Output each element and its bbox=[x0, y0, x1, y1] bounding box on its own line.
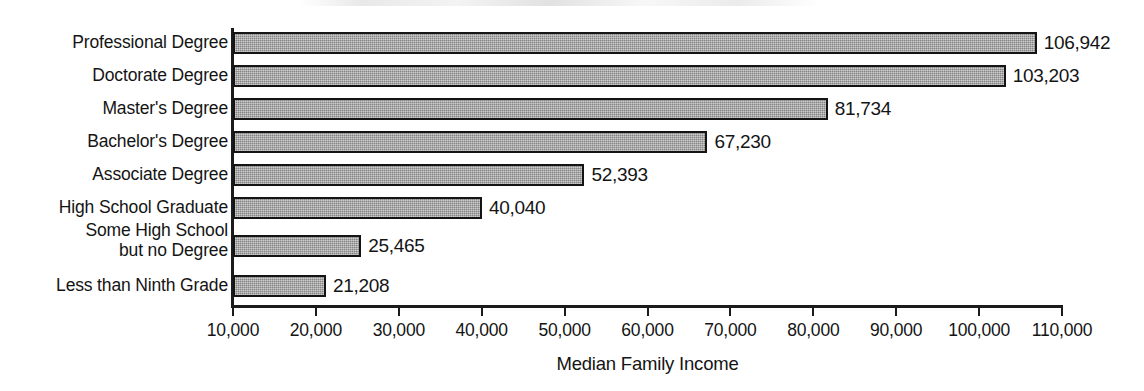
bar-value-label: 81,734 bbox=[835, 98, 891, 120]
x-tick-label: 70,000 bbox=[704, 320, 756, 340]
x-axis-title: Median Family Income bbox=[233, 353, 1062, 375]
x-tick bbox=[1061, 305, 1063, 316]
bar-value-label: 67,230 bbox=[714, 131, 770, 153]
x-tick-label: 20,000 bbox=[290, 320, 342, 340]
bar bbox=[233, 131, 707, 153]
category-label: High School Graduate bbox=[0, 197, 228, 217]
category-label: Master's Degree bbox=[0, 98, 228, 118]
x-tick-label: 110,000 bbox=[1032, 320, 1093, 340]
category-label: Bachelor's Degree bbox=[0, 131, 228, 151]
bar bbox=[233, 197, 482, 219]
x-tick bbox=[895, 305, 897, 316]
x-tick bbox=[564, 305, 566, 316]
bar-value-label: 21,208 bbox=[333, 275, 389, 297]
x-tick bbox=[729, 305, 731, 316]
x-tick-label: 50,000 bbox=[538, 320, 590, 340]
category-label: Less than Ninth Grade bbox=[0, 275, 228, 295]
bar-value-label: 25,465 bbox=[368, 235, 424, 257]
x-tick bbox=[647, 305, 649, 316]
category-label: Associate Degree bbox=[0, 164, 228, 184]
x-tick bbox=[398, 305, 400, 316]
bar bbox=[233, 164, 584, 186]
x-tick-label: 30,000 bbox=[373, 320, 425, 340]
bar bbox=[233, 32, 1037, 54]
bar bbox=[233, 235, 361, 257]
x-tick-label: 80,000 bbox=[787, 320, 839, 340]
bar-value-label: 106,942 bbox=[1044, 32, 1111, 54]
x-tick-label: 60,000 bbox=[621, 320, 673, 340]
x-tick bbox=[315, 305, 317, 316]
x-tick bbox=[978, 305, 980, 316]
category-label: Some High School but no Degree bbox=[0, 220, 228, 260]
bar-chart: Professional DegreeDoctorate DegreeMaste… bbox=[0, 0, 1144, 391]
scan-artifact-strip bbox=[300, 0, 820, 6]
x-tick-label: 40,000 bbox=[456, 320, 508, 340]
bar-value-label: 52,393 bbox=[591, 164, 647, 186]
x-tick bbox=[232, 305, 234, 316]
bar-value-label: 40,040 bbox=[489, 197, 545, 219]
bar-value-label: 103,203 bbox=[1013, 65, 1080, 87]
category-label: Doctorate Degree bbox=[0, 65, 228, 85]
x-tick bbox=[481, 305, 483, 316]
x-tick-label: 10,000 bbox=[207, 320, 259, 340]
x-tick bbox=[812, 305, 814, 316]
bar bbox=[233, 65, 1006, 87]
category-label: Professional Degree bbox=[0, 32, 228, 52]
bar bbox=[233, 275, 326, 297]
bar bbox=[233, 98, 828, 120]
x-tick-label: 90,000 bbox=[870, 320, 922, 340]
plot-area: 10,00020,00030,00040,00050,00060,00070,0… bbox=[233, 28, 1062, 305]
x-tick-label: 100,000 bbox=[948, 320, 1010, 340]
